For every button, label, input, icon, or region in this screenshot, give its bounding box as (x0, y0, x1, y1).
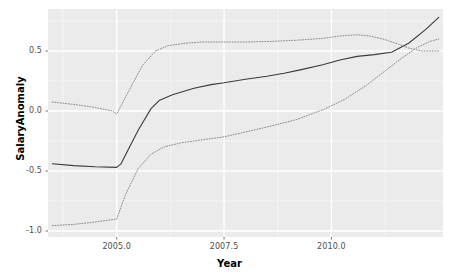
axis-tick-marks (46, 51, 332, 240)
y-axis-title: SalaryAnomaly (15, 39, 26, 199)
x-tick-label: 2010.0 (301, 242, 361, 251)
data-series-layer (52, 17, 438, 225)
series-lower-confidence (52, 39, 438, 226)
series-upper-confidence (52, 35, 438, 114)
x-tick-label: 2007.5 (194, 242, 254, 251)
x-tick-label: 2005.0 (87, 242, 147, 251)
y-tick-label: -1.0 (8, 226, 42, 235)
series-fit (52, 17, 438, 167)
plot-canvas (0, 0, 459, 277)
grid-major-lines (48, 9, 443, 237)
grid-minor-lines (48, 9, 443, 237)
chart-root: 0.50.0-0.5-1.0 2005.02007.52010.0 Salary… (0, 0, 459, 277)
x-axis-title: Year (0, 258, 459, 269)
